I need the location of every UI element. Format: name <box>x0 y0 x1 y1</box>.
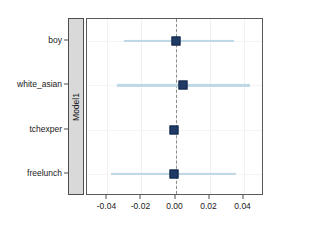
x-axis-tick-label: 0.04 <box>234 201 251 211</box>
y-axis-tick-label: freelunch <box>27 168 62 178</box>
x-axis-tick-mark <box>174 195 175 199</box>
facet-strip-label: Model1 <box>71 93 81 121</box>
x-axis-tick-mark <box>106 195 107 199</box>
facet-strip: Model1 <box>68 18 84 195</box>
x-axis-tick-mark <box>242 195 243 199</box>
estimate-point-marker <box>170 125 179 134</box>
x-axis-tick-label: 0.00 <box>166 201 183 211</box>
x-axis-tick-mark <box>140 195 141 199</box>
y-axis-tick-label: tchexper <box>29 124 62 134</box>
x-axis-tick-mark <box>208 195 209 199</box>
gridline-vertical <box>107 19 108 194</box>
x-axis: -0.04-0.020.000.020.04 <box>86 195 263 225</box>
estimate-point-marker <box>172 37 181 46</box>
gridline-vertical <box>210 19 211 194</box>
x-axis-tick-label: 0.02 <box>200 201 217 211</box>
gridline-vertical <box>141 19 142 194</box>
estimate-point-marker <box>178 81 187 90</box>
gridline-vertical <box>244 19 245 194</box>
x-axis-tick-label: -0.04 <box>97 201 116 211</box>
y-axis-tick-label: boy <box>48 35 62 45</box>
y-axis-tick-label: white_asian <box>17 79 62 89</box>
x-axis-tick-label: -0.02 <box>131 201 150 211</box>
y-axis: boywhite_asiantchexperfreelunch <box>0 18 68 195</box>
estimate-point-marker <box>170 169 179 178</box>
forest-plot-figure: boywhite_asiantchexperfreelunch Model1 -… <box>0 0 315 232</box>
plot-panel <box>86 18 263 195</box>
